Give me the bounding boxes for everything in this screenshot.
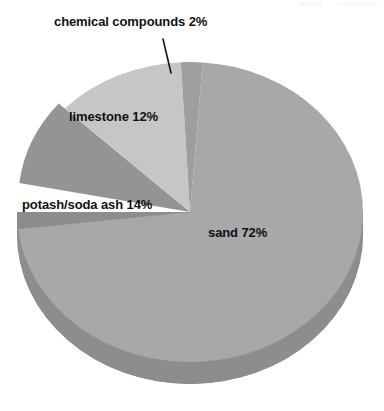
- slice-label-potash: potash/soda ash 14%: [22, 198, 152, 211]
- scan-artifact: [300, 2, 322, 7]
- scan-artifact: [338, 3, 378, 6]
- slice-label-chemical-compounds: chemical compounds 2%: [54, 15, 207, 28]
- slice-label-sand: sand 72%: [208, 226, 267, 239]
- pie-chart: chemical compounds 2% limestone 12% pota…: [0, 0, 384, 411]
- slice-label-limestone: limestone 12%: [69, 110, 158, 123]
